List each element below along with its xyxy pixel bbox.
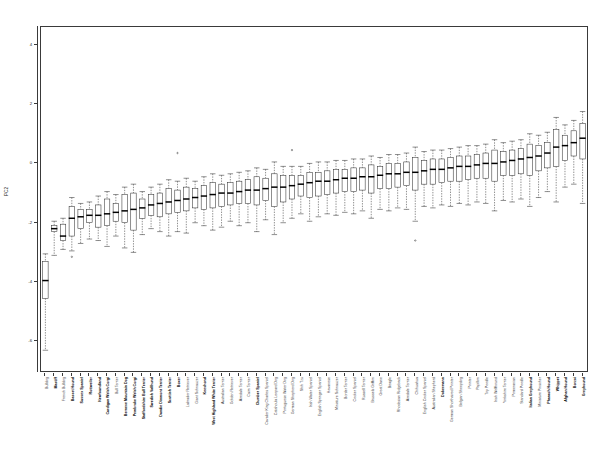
boxplot-box (95, 196, 101, 240)
boxplot-box (113, 195, 119, 237)
y-tick-label: -4 (18, 279, 32, 284)
boxplot-box (324, 162, 330, 214)
x-tick-label: Bulldog (46, 377, 50, 389)
x-tick-mark (168, 373, 169, 376)
boxplot-box (579, 112, 585, 204)
boxplot-box (201, 177, 207, 226)
x-tick-label: Giant Schnauzer (196, 377, 200, 404)
y-tick-mark (34, 222, 37, 223)
x-tick-mark (494, 373, 495, 376)
x-tick-mark (582, 373, 583, 376)
x-tick-mark (388, 373, 389, 376)
x-tick-label: French Bulldog (63, 377, 67, 401)
x-tick-label: Airedale Terrier (407, 377, 411, 401)
x-tick-label: Chihuahua (416, 377, 420, 394)
y-tick-mark (34, 281, 37, 282)
boxplot-box (403, 153, 409, 209)
boxplot-box (245, 171, 251, 223)
x-tick-label: Standard Poodle (521, 377, 525, 404)
x-tick-label: Cocker Spaniel (354, 377, 358, 401)
x-axis-ticks (40, 373, 588, 376)
x-tick-label: Mastiff (55, 377, 59, 389)
x-tick-mark (221, 373, 222, 376)
boxplot-box (148, 187, 154, 229)
x-tick-label: Brussels Griffon (372, 377, 376, 403)
boxplot-box (483, 144, 489, 203)
x-tick-label: Havanese (328, 377, 332, 393)
x-tick-label: English Cocker Spaniel (424, 377, 428, 414)
x-tick-label: Swedish Vallhund (151, 377, 155, 408)
x-tick-mark (370, 373, 371, 376)
y-tick-label: 2 (18, 101, 32, 106)
boxplot-box (527, 134, 533, 207)
x-tick-label: Toy Poodle (486, 377, 490, 395)
x-tick-mark (353, 373, 354, 376)
x-tick-label: Golden Retriever (231, 377, 235, 404)
x-tick-mark (124, 373, 125, 376)
y-tick-mark (34, 103, 37, 104)
boxplot-box (359, 159, 365, 211)
x-tick-label: Staffordshire Bull Terrier (143, 377, 147, 419)
x-tick-label: Pointer (469, 377, 473, 388)
x-tick-label: Rhodesian Ridgeback (398, 377, 402, 412)
boxplot-box (236, 172, 242, 225)
x-tick-mark (467, 373, 468, 376)
x-tick-label: Irish Wolfhound (495, 377, 499, 402)
boxplot-box (227, 174, 233, 221)
x-tick-mark (423, 373, 424, 376)
x-tick-mark (344, 373, 345, 376)
x-tick-mark (62, 373, 63, 376)
x-tick-mark (476, 373, 477, 376)
boxplot-box (535, 135, 541, 197)
x-tick-label: West Highland White Terrier (213, 377, 217, 425)
x-tick-label: Greyhound (583, 377, 587, 396)
boxplot-box (544, 132, 550, 191)
x-tick-mark (458, 373, 459, 376)
boxplot-box (60, 218, 66, 249)
x-tick-mark (106, 373, 107, 376)
x-tick-label: Australian Terrier (222, 377, 226, 404)
boxplot-box (86, 202, 92, 239)
boxplot-box (271, 162, 277, 235)
x-tick-mark (212, 373, 213, 376)
x-tick-mark (405, 373, 406, 376)
x-tick-mark (71, 373, 72, 376)
boxplot-box (254, 168, 260, 232)
x-tick-label: Belgian Sheepdog (460, 377, 464, 406)
x-tick-mark (326, 373, 327, 376)
x-tick-mark (273, 373, 274, 376)
x-tick-label: Pomeranian (513, 377, 517, 396)
x-tick-label: Cardigan Welsh Corgi (107, 377, 111, 414)
x-tick-mark (441, 373, 442, 376)
x-tick-mark (291, 373, 292, 376)
boxplot-box (386, 155, 392, 211)
x-tick-label: Italian Greyhound (530, 377, 534, 408)
boxplot-box (456, 147, 462, 203)
x-tick-label: Catahoula Leopard Dog (275, 377, 279, 415)
x-tick-label: Cavalier King Charles Spaniel (266, 377, 270, 425)
boxplot-box (447, 149, 453, 207)
x-tick-mark (229, 373, 230, 376)
boxplot-box (474, 146, 480, 202)
boxplot-box (315, 162, 321, 217)
x-tick-label: Papillon (477, 377, 481, 390)
boxplot-box (77, 203, 83, 243)
boxplot-box (174, 152, 180, 231)
x-tick-label: Bernese Mountain Dog (125, 377, 129, 416)
x-tick-mark (335, 373, 336, 376)
x-tick-mark (546, 373, 547, 376)
x-tick-label: Irish Water Spaniel (310, 377, 314, 407)
x-tick-label: Boxer (178, 377, 182, 387)
x-tick-mark (203, 373, 204, 376)
x-tick-mark (88, 373, 89, 376)
x-tick-mark (361, 373, 362, 376)
x-tick-label: Beagle (389, 377, 393, 388)
x-tick-mark (300, 373, 301, 376)
x-tick-label: English Springer Spaniel (319, 377, 323, 416)
x-tick-label: Australian Shepherd (433, 377, 437, 410)
x-tick-mark (97, 373, 98, 376)
x-tick-mark (256, 373, 257, 376)
boxplot-box (421, 152, 427, 207)
boxplot-box (377, 157, 383, 209)
x-tick-mark (432, 373, 433, 376)
